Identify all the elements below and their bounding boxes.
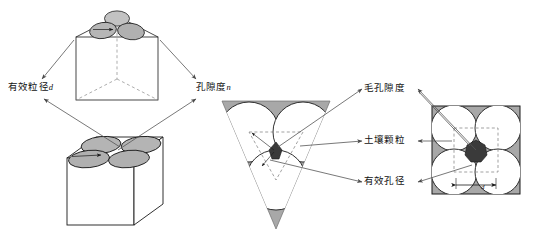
- label-effective-grain-diameter: 有效粒径d: [8, 83, 53, 93]
- triangular-packing-diagram: [219, 101, 333, 229]
- label-capillary-porosity: 毛孔隙度: [364, 84, 405, 94]
- figure-canvas: [0, 0, 554, 243]
- label-porosity-text: 孔隙度: [196, 82, 227, 92]
- label-soil-particle: 土壤颗粒: [364, 136, 405, 146]
- label-porosity-symbol: n: [227, 82, 231, 92]
- label-effective-pore-diameter: 有效孔径: [364, 177, 405, 187]
- leader-arrows-left-panel: [42, 40, 196, 150]
- label-effective-grain-diameter-symbol: d: [49, 82, 53, 92]
- label-effective-grain-diameter-text: 有效粒径: [8, 82, 49, 92]
- label-dimension-symbol: d: [481, 183, 485, 191]
- label-porosity: 孔隙度n: [196, 83, 231, 93]
- wireframe-cube-top: [76, 16, 158, 100]
